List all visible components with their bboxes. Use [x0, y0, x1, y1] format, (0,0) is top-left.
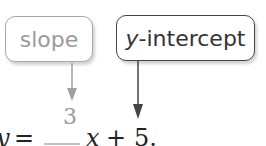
- plus-sign: +: [106, 124, 126, 146]
- equation-lhs: y: [0, 124, 10, 146]
- slope-arrow-icon: [67, 63, 77, 101]
- equals-sign: =: [14, 124, 34, 146]
- equation-variable: x: [86, 124, 100, 146]
- y-intercept-value: 5.: [134, 124, 157, 146]
- y-intercept-arrow-icon: [133, 61, 143, 119]
- callout-arrows: [0, 0, 266, 146]
- slope-numerator: 3: [63, 104, 77, 129]
